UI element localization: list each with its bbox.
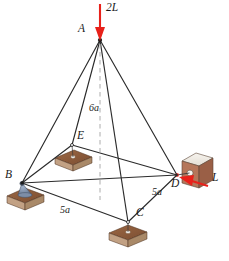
node-label-C: C — [136, 207, 144, 219]
force-arrow-2L — [95, 4, 105, 41]
space-truss-diagram — [0, 0, 229, 261]
force-label-L: L — [212, 172, 218, 184]
member-A-D — [100, 40, 177, 175]
dimension-label-span-bc: 5a — [60, 205, 70, 215]
member-B-D — [22, 175, 177, 183]
figure-canvas: A B C D E 6a 5a 5a 2L L — [0, 0, 229, 261]
support-block-D — [175, 153, 213, 188]
node-label-D: D — [171, 178, 179, 190]
member-A-C — [100, 40, 128, 222]
dimension-label-height: 6a — [89, 103, 99, 113]
joint-E — [71, 144, 74, 147]
force-label-2L: 2L — [106, 2, 118, 14]
joint-C — [127, 221, 130, 224]
node-label-A: A — [78, 23, 85, 35]
support-pad-B — [7, 181, 44, 210]
node-label-B: B — [5, 169, 12, 181]
support-pad-C — [109, 222, 147, 247]
joint-B — [20, 181, 23, 184]
dimension-label-span-cd: 5a — [152, 187, 162, 197]
node-label-E: E — [77, 130, 84, 142]
